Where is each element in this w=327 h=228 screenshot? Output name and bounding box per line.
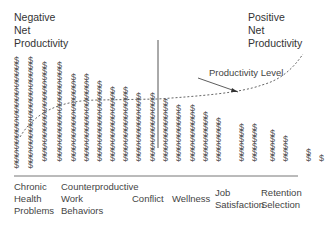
dollar-icon: $ [306, 147, 311, 157]
dollar-icon: $ [14, 55, 19, 65]
dollar-column: $$$$$$ [239, 122, 244, 163]
dollar-column: $$$$$$$$$$$$$$$$$$ [14, 55, 19, 170]
category-conflict: Conflict [132, 193, 164, 205]
dollar-icon: $ [84, 72, 89, 82]
dollar-icon: $ [71, 72, 76, 82]
arrowhead-icon [231, 88, 238, 92]
dollar-column: $$$$$$$$$$$$ [110, 85, 115, 163]
productivity-level-label: Productivity Level [209, 67, 283, 79]
dollar-icon: $ [110, 85, 115, 95]
dollar-icon: $ [239, 122, 244, 132]
dollar-icon: $ [319, 153, 324, 163]
dollar-icon: $ [252, 122, 257, 132]
dollar-column: $$$$$$$ [216, 116, 221, 163]
category-chronic-health: Chronic Health Problems [14, 181, 54, 217]
dollar-column: $$$$$$$$$$ [163, 97, 168, 163]
dollar-icon: $ [28, 55, 33, 65]
category-retention-selection: Retention Selection [261, 187, 302, 211]
dollar-icon: $ [203, 110, 208, 120]
dollar-icon: $ [123, 85, 128, 95]
category-counterproductive: Counterproductive Work Behaviors [61, 181, 139, 217]
dollar-column: $$$$$$$$$$$$$$$$$$ [28, 55, 33, 170]
dollar-icon: $ [216, 116, 221, 126]
dollar-icon: $ [270, 128, 275, 138]
dollar-column: $$$$$$$$ [203, 110, 208, 163]
dollar-column: $$$$ [283, 134, 288, 163]
dollar-icon: $ [57, 60, 62, 70]
dollar-column: $$$$$$$$$$$ [150, 91, 155, 163]
negative-productivity-label: Negative Net Productivity [14, 11, 68, 50]
dollar-icon: $ [42, 60, 47, 70]
dollar-column: $$$$$$$$$$$$$$ [71, 72, 76, 163]
positive-productivity-label: Positive Net Productivity [248, 11, 302, 50]
dollar-icon: $ [190, 103, 195, 113]
dollar-column: $$$$$$$$$ [176, 103, 181, 163]
dollar-column: $$$$$ [270, 128, 275, 163]
category-wellness: Wellness [172, 193, 210, 205]
dollar-column: $ [319, 153, 324, 163]
category-job-satisfaction: Job Satisfaction [215, 187, 264, 211]
dollar-icon: $ [97, 79, 102, 89]
dollar-icon: $ [176, 103, 181, 113]
dollar-column: $$ [306, 147, 311, 163]
dollar-column: $$$$$$$$$$$$ [123, 85, 128, 163]
dollar-column: $$$$$$$$$$$$$$$$ [57, 60, 62, 163]
dollar-column: $$$$$$$$$$$$$ [97, 79, 102, 163]
dollar-column: $$$$$$ [252, 122, 257, 163]
dollar-column: $$$$$$$$$$$ [136, 91, 141, 163]
dollar-column: $$$$$$$$$$$$$$ [84, 72, 89, 163]
dollar-column: $$$$$$$$$ [190, 103, 195, 163]
dollar-icon: $ [283, 134, 288, 144]
